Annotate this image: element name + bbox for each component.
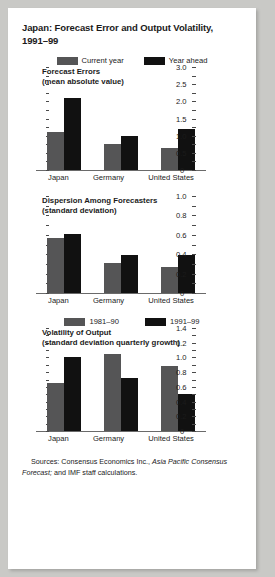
y-tick-label: 0.2 (176, 269, 187, 278)
x-tick-label: Japan (48, 434, 69, 443)
x-tick-label: Japan (48, 296, 69, 305)
bar-group (47, 234, 81, 293)
legend-label: Current year (82, 56, 124, 65)
bar (104, 144, 121, 170)
chart-title-line1: Dispersion Among Forecasters (42, 196, 157, 205)
y-tick-label: 0.5 (176, 148, 187, 157)
chart-title-line1: Volatility of Output (42, 328, 111, 337)
bar (121, 378, 138, 431)
y-tick-label: 1.0 (176, 192, 187, 201)
axis-tick (192, 293, 196, 294)
bar-group (104, 255, 138, 293)
x-tick-label: Japan (48, 173, 69, 182)
y-tick-label: 1.5 (176, 114, 187, 123)
y-tick-label: 0 (180, 166, 184, 175)
bar (47, 132, 64, 170)
y-tick-label: 0.4 (176, 250, 187, 259)
grey-swatch-icon (57, 57, 78, 65)
y-tick-label: 0 (180, 289, 184, 298)
chart-panel-dispersion: Dispersion Among Forecasters (standard d… (22, 196, 242, 305)
y-tick-label: 0.6 (176, 230, 187, 239)
source-suffix: and IMF staff calculations. (52, 468, 137, 477)
chart-panel-forecast-errors: Forecast Errors (mean absolute value) 00… (22, 67, 242, 182)
page-title: Japan: Forecast Error and Output Volatil… (22, 22, 227, 47)
chart-title-line2: (standard deviation quarterly growth) (42, 338, 180, 347)
y-tick-label: 0.2 (176, 412, 187, 421)
axis-tick (192, 431, 196, 432)
bar-group (104, 354, 138, 431)
y-tick-label: 0.6 (176, 382, 187, 391)
y-tick-label: 3.0 (176, 63, 187, 72)
legend-label: Year ahead (169, 56, 208, 65)
x-tick-label: Germany (93, 434, 124, 443)
y-axis-labels: 00.20.40.60.81.0 (170, 196, 206, 293)
chart-panel-volatility: Volatility of Output (standard deviation… (22, 328, 242, 443)
y-tick-label: 1.0 (176, 131, 187, 140)
bar (104, 263, 121, 293)
y-axis-labels: 00.51.01.52.02.53.0 (170, 67, 206, 170)
bar-group (47, 357, 81, 431)
y-tick-label: 0.4 (176, 397, 187, 406)
x-tick-label: Germany (93, 173, 124, 182)
y-tick-label: 2.5 (176, 80, 187, 89)
y-tick-label: 1.0 (176, 353, 187, 362)
chart-title-line1: Forecast Errors (42, 67, 100, 76)
y-tick-label: 0 (180, 427, 184, 436)
chart-title: Volatility of Output (standard deviation… (42, 328, 180, 348)
x-tick-label: United States (148, 173, 194, 182)
axis-tick (46, 293, 50, 294)
black-swatch-icon (145, 318, 166, 326)
bar (121, 255, 138, 293)
bar-group (47, 98, 81, 170)
x-tick-label: Germany (93, 296, 124, 305)
bar (64, 98, 81, 170)
axis-tick (46, 431, 50, 432)
bar (104, 354, 121, 431)
legend-main: Current year Year ahead (22, 56, 242, 65)
chart-title-line2: (standard deviation) (42, 206, 117, 215)
legend-item-current-year: Current year (57, 56, 124, 65)
y-tick-label: 2.0 (176, 97, 187, 106)
x-tick-label: United States (148, 296, 194, 305)
legend-label: 1981–90 (89, 317, 119, 326)
black-swatch-icon (144, 57, 165, 65)
grey-swatch-icon (64, 318, 85, 326)
chart-title: Forecast Errors (mean absolute value) (42, 67, 124, 87)
legend-item-1991-99: 1991–99 (145, 317, 200, 326)
bar (47, 238, 64, 293)
figure-card: Japan: Forecast Error and Output Volatil… (8, 8, 256, 569)
axis-tick (192, 170, 196, 171)
chart-title: Dispersion Among Forecasters (standard d… (42, 196, 157, 216)
bar (64, 357, 81, 431)
chart-title-line2: (mean absolute value) (42, 77, 124, 86)
axis-tick (46, 170, 50, 171)
y-tick-label: 0.8 (176, 211, 187, 220)
x-tick-label: United States (148, 434, 194, 443)
source-prefix: Sources: Consensus Economics Inc., (31, 457, 152, 466)
bar (47, 383, 64, 431)
bar (121, 136, 138, 170)
bar (64, 234, 81, 293)
y-tick-label: 0.8 (176, 368, 187, 377)
legend-item-1981-90: 1981–90 (64, 317, 119, 326)
source-note: Sources: Consensus Economics Inc., Asia … (22, 457, 228, 478)
legend-third-chart: 1981–90 1991–99 (22, 317, 242, 326)
bar-group (104, 136, 138, 170)
